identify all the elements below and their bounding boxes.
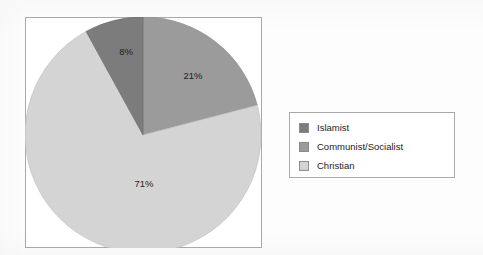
chart-page: 8% 21% 71% Islamist Communist/Socialist … <box>0 0 483 255</box>
legend-item-christian[interactable]: Christian <box>299 157 454 175</box>
legend-swatch-christian-icon <box>299 161 309 171</box>
slice-label-islamist: 8% <box>119 46 133 57</box>
legend-swatch-communist-socialist-icon <box>299 142 309 152</box>
legend-swatch-islamist-icon <box>299 123 309 133</box>
legend-label-communist-socialist: Communist/Socialist <box>317 142 403 152</box>
slice-label-communist-socialist: 21% <box>183 70 203 81</box>
legend-item-communist-socialist[interactable]: Communist/Socialist <box>299 138 454 156</box>
pie-chart: 8% 21% 71% <box>25 17 262 248</box>
legend-label-islamist: Islamist <box>317 123 349 133</box>
legend-item-islamist[interactable]: Islamist <box>299 119 454 137</box>
legend-label-christian: Christian <box>317 161 355 171</box>
legend: Islamist Communist/Socialist Christian <box>289 112 455 178</box>
pie-chart-svg: 8% 21% 71% <box>25 17 262 248</box>
slice-label-christian: 71% <box>134 178 154 189</box>
